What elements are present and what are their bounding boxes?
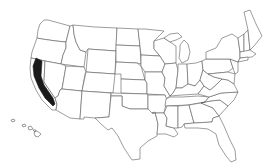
state-mississippi [164,106,178,128]
state-utah [62,66,86,91]
state-pennsylvania [202,59,233,74]
us-map: United States [0,0,267,167]
state-indiana [176,64,188,88]
state-colorado [82,72,115,93]
state-montana [73,25,117,52]
state-south-dakota [116,45,141,64]
state-new-york [206,34,240,62]
state-nebraska [115,62,145,80]
state-wyoming [86,49,116,74]
state-arizona [55,89,82,119]
state-new-mexico [80,91,111,119]
state-arkansas [148,95,167,113]
state-hawaii [11,119,41,137]
state-kansas [121,79,147,94]
state-north-dakota [116,28,140,46]
us-map-svg [0,0,267,167]
